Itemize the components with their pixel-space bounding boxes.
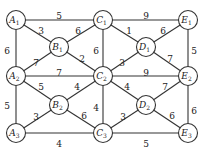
edge-weight-label: 2 [79, 54, 85, 64]
edge-weight-label: 3 [119, 58, 125, 68]
edge-weight-label: 9 [143, 68, 149, 78]
node-d2: D2 [137, 96, 156, 115]
edge-weight-label: 3 [38, 26, 44, 36]
edge-weight-label: 9 [143, 11, 149, 21]
node-b1: B1 [50, 38, 69, 57]
node-c2: C2 [94, 67, 113, 86]
edge-weight-label: 5 [143, 139, 149, 149]
node-c1: C1 [94, 11, 113, 30]
edge-weight-label: 4 [124, 82, 130, 92]
node-a3: A3 [7, 124, 26, 143]
edge-weight-label: 5 [191, 46, 197, 56]
edge-weight-label: 7 [167, 54, 173, 64]
edge-weight-label: 3 [120, 112, 126, 122]
edge-weight-label: 4 [74, 82, 80, 92]
node-e3: E3 [179, 124, 198, 143]
edge-weight-label: 5 [56, 11, 62, 21]
edge-weight-label: 6 [81, 111, 87, 121]
node-c3: C3 [94, 124, 113, 143]
edge-weight-label: 5 [38, 82, 44, 92]
edge-weight-label: 1 [126, 26, 132, 36]
edge-weight-label: 6 [160, 26, 166, 36]
edge-weight-label: 7 [56, 68, 62, 78]
edge-weight-label: 7 [33, 58, 39, 68]
edge-weight-label: 7 [162, 82, 168, 92]
edge-weight-label: 5 [4, 101, 10, 111]
edge-weight-label: 4 [93, 103, 99, 113]
graph-diagram: 5936166657237795447546363645 A1B1C1D1E1A… [0, 0, 207, 160]
edge-weight-label: 6 [169, 111, 175, 121]
edge-weight-label: 3 [33, 112, 39, 122]
edge-weight-label: 6 [191, 106, 197, 116]
node-a1: A1 [7, 11, 26, 30]
edge-weight-label: 6 [4, 46, 10, 56]
edge-weight-label: 6 [93, 46, 99, 56]
edge-weight-label: 4 [56, 139, 62, 149]
node-d1: D1 [137, 38, 156, 57]
node-e2: E2 [179, 67, 198, 86]
node-e1: E1 [179, 11, 198, 30]
edge-weight-label: 6 [75, 26, 81, 36]
node-b2: B2 [50, 96, 69, 115]
node-a2: A2 [7, 67, 26, 86]
